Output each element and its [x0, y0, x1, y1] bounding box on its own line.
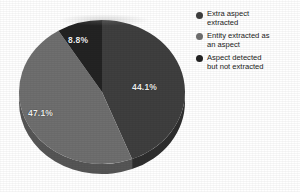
legend-item-label: Entity extracted as an aspect — [207, 31, 269, 49]
legend-marker-circle-icon — [196, 33, 203, 40]
legend-marker-circle-icon — [196, 55, 203, 62]
slice-label-entity-extracted-as-an-aspect: 47.1% — [28, 108, 53, 118]
legend-label-line2: an aspect — [207, 40, 269, 49]
slice-label-aspect-detected-but-not-extracted: 8.8% — [68, 35, 88, 45]
legend-label-line1: Extra aspect — [207, 9, 249, 18]
chart-plot-area: 44.1% 47.1% 8.8% — [0, 0, 195, 192]
chart-legend: Extra aspect extracted Entity extracted … — [196, 9, 300, 75]
slice-label-extra-aspect-extracted: 44.1% — [132, 82, 157, 92]
pie-slices-group — [19, 20, 185, 174]
legend-item-label: Extra aspect extracted — [207, 9, 249, 27]
pie-chart-figure: 44.1% 47.1% 8.8% Extra aspect extracted … — [0, 0, 300, 192]
legend-item-aspect-detected-but-not-extracted[interactable]: Aspect detected but not extracted — [196, 53, 300, 71]
legend-item-extra-aspect-extracted[interactable]: Extra aspect extracted — [196, 9, 300, 27]
legend-item-entity-extracted-as-an-aspect[interactable]: Entity extracted as an aspect — [196, 31, 300, 49]
legend-label-line1: Entity extracted as — [207, 31, 269, 40]
legend-marker-circle-icon — [196, 12, 203, 19]
pie-chart-svg — [0, 0, 195, 192]
legend-label-line2: but not extracted — [207, 62, 264, 71]
legend-label-line1: Aspect detected — [207, 53, 264, 62]
legend-label-line2: extracted — [207, 18, 249, 27]
legend-item-label: Aspect detected but not extracted — [207, 53, 264, 71]
